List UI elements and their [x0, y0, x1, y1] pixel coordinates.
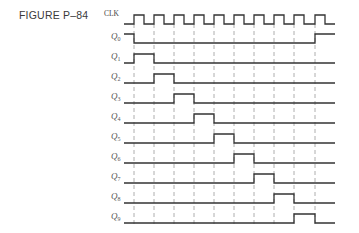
clk-label: CLK	[104, 9, 120, 18]
q0-waveform	[124, 34, 335, 43]
q9-label: Q9	[111, 211, 121, 222]
q2-label: Q2	[111, 71, 121, 82]
q1-waveform	[124, 54, 335, 63]
q5-waveform	[124, 134, 335, 143]
q7-label: Q7	[111, 171, 121, 182]
q6-label: Q6	[111, 151, 121, 162]
q7-waveform	[124, 174, 335, 183]
q2-waveform	[124, 74, 335, 83]
q8-waveform	[124, 194, 335, 203]
q4-waveform	[124, 114, 335, 123]
q5-label: Q5	[111, 131, 121, 142]
q6-waveform	[124, 154, 335, 163]
q9-waveform	[124, 214, 335, 223]
clock-edge-guides	[134, 24, 315, 226]
q1-label: Q1	[111, 51, 121, 62]
q4-label: Q4	[111, 111, 121, 122]
q3-waveform	[124, 94, 335, 103]
timing-diagram: CLKQ0Q1Q2Q3Q4Q5Q6Q7Q8Q9	[0, 0, 359, 233]
q3-label: Q3	[111, 91, 121, 102]
signal-labels: CLKQ0Q1Q2Q3Q4Q5Q6Q7Q8Q9	[104, 9, 121, 222]
waveforms	[124, 15, 335, 223]
clk-waveform	[124, 15, 335, 24]
q8-label: Q8	[111, 191, 121, 202]
q0-label: Q0	[111, 31, 121, 42]
